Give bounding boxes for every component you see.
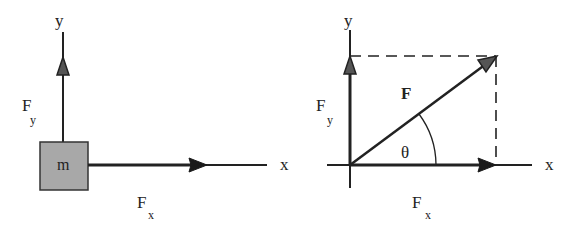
left-fy-subscript: y bbox=[30, 114, 36, 126]
right-y-axis-label: y bbox=[344, 12, 353, 29]
angle-label: θ bbox=[401, 144, 409, 161]
left-y-axis-label: y bbox=[55, 12, 64, 29]
angle-arc bbox=[419, 114, 436, 165]
force-arrowhead-icon bbox=[478, 56, 497, 72]
right-x-axis-label: x bbox=[545, 156, 554, 173]
force-vector bbox=[350, 64, 486, 165]
mass-label: m bbox=[57, 157, 69, 173]
left-panel bbox=[40, 32, 267, 190]
force-diagram bbox=[0, 0, 572, 229]
left-x-axis-label: x bbox=[280, 156, 289, 173]
right-panel bbox=[327, 30, 532, 188]
force-label: F bbox=[401, 85, 411, 102]
left-fx-arrowhead-icon bbox=[189, 158, 207, 172]
right-fx-arrowhead-icon bbox=[478, 158, 496, 172]
left-fx-subscript: x bbox=[148, 209, 154, 221]
left-fy-arrowhead-icon bbox=[57, 57, 69, 75]
right-fx-subscript: x bbox=[425, 209, 431, 221]
right-fy-subscript: y bbox=[327, 114, 333, 126]
left-fx-symbol: F bbox=[137, 194, 146, 211]
right-fx-symbol: F bbox=[412, 194, 421, 211]
right-fy-arrowhead-icon bbox=[344, 56, 356, 74]
left-fy-symbol: F bbox=[22, 97, 31, 114]
right-fy-symbol: F bbox=[316, 97, 325, 114]
